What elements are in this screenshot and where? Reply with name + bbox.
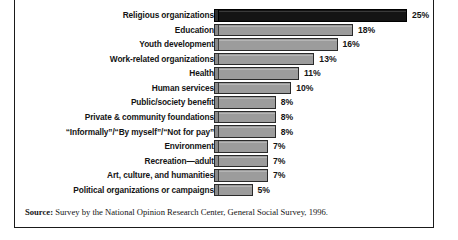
bar-row: Human services10% <box>15 81 433 96</box>
source-note: Source: Survey by the National Opinion R… <box>25 207 421 217</box>
bar-value-label: 18% <box>358 26 375 35</box>
bar <box>214 82 291 95</box>
bar-row: Youth development16% <box>15 37 433 52</box>
bar-category-label: “Informally”/“By myself”/“Not for pay” <box>4 128 214 136</box>
bar <box>214 140 268 153</box>
bar-row: Public/society benefit8% <box>15 95 433 110</box>
source-label: Source: <box>25 207 53 217</box>
bar-wrapper <box>214 82 291 95</box>
bar <box>214 184 253 197</box>
bar-category-label: Work-related organizations <box>4 55 214 63</box>
bar-row: Work-related organizations13% <box>15 52 433 67</box>
bar-wrapper <box>214 169 268 182</box>
bar-row: Political organizations or campaigns5% <box>15 183 433 198</box>
bar-value-label: 13% <box>319 55 336 64</box>
bar-highlight-line <box>219 40 337 41</box>
bar-category-label: Youth development <box>4 40 214 48</box>
bar <box>214 155 268 168</box>
bar-row: Health11% <box>15 66 433 81</box>
bar-category-label: Human services <box>4 84 214 92</box>
bar-category-label: Religious organizations <box>4 11 214 19</box>
bar-row: Education18% <box>15 23 433 38</box>
bar-highlight-line <box>219 84 290 85</box>
bar-category-label: Private & community foundations <box>4 113 214 121</box>
bar-wrapper <box>214 53 314 66</box>
bar-highlight-line <box>219 26 352 27</box>
bar <box>214 24 353 37</box>
bar-wrapper <box>214 67 299 80</box>
bar-wrapper <box>214 111 276 124</box>
bar-highlight-line <box>219 69 298 70</box>
source-text: Survey by the National Opinion Research … <box>53 207 328 217</box>
bar-value-label: 10% <box>296 84 313 93</box>
bar-value-label: 16% <box>343 40 360 49</box>
bar-row: Environment7% <box>15 139 433 154</box>
figure-frame: Religious organizations25%Education18%Yo… <box>14 0 434 228</box>
bar-wrapper <box>214 155 268 168</box>
bar-value-label: 7% <box>273 171 285 180</box>
bar-wrapper <box>214 140 268 153</box>
bar-value-label: 25% <box>412 11 429 20</box>
bar-category-label: Political organizations or campaigns <box>4 186 214 194</box>
bar-wrapper <box>214 125 276 138</box>
bar-value-label: 7% <box>273 142 285 151</box>
bar <box>214 96 276 109</box>
bar <box>214 125 276 138</box>
bar <box>214 169 268 182</box>
bar-category-label: Environment <box>4 142 214 150</box>
bar-value-label: 8% <box>281 113 293 122</box>
bar-value-label: 7% <box>273 157 285 166</box>
bar-highlight-line <box>219 142 267 143</box>
bar-wrapper <box>214 38 338 51</box>
bar-value-label: 5% <box>258 186 270 195</box>
bar-highlight-line <box>219 157 267 158</box>
bar-highlight-line <box>219 11 406 12</box>
bar-row: Religious organizations25% <box>15 8 433 23</box>
bar-highlight-line <box>219 171 267 172</box>
bar-category-label: Art, culture, and humanities <box>4 171 214 179</box>
bar-wrapper <box>214 24 353 37</box>
bar-value-label: 11% <box>304 69 321 78</box>
bar-row: Recreation—adult7% <box>15 154 433 169</box>
bar-category-label: Education <box>4 26 214 34</box>
bar-category-label: Public/society benefit <box>4 98 214 106</box>
bar-wrapper <box>214 9 407 22</box>
bar-wrapper <box>214 96 276 109</box>
bar-row: “Informally”/“By myself”/“Not for pay”8% <box>15 124 433 139</box>
bar-value-label: 8% <box>281 98 293 107</box>
bar-highlight-line <box>219 98 275 99</box>
bar-category-label: Health <box>4 69 214 77</box>
bar <box>214 111 276 124</box>
bar-chart: Religious organizations25%Education18%Yo… <box>15 0 433 189</box>
bar <box>214 53 314 66</box>
bar-highlight-line <box>219 113 275 114</box>
bar-row: Private & community foundations8% <box>15 110 433 125</box>
bar-wrapper <box>214 184 253 197</box>
bar-value-label: 8% <box>281 128 293 137</box>
bar <box>214 38 338 51</box>
bar-row: Art, culture, and humanities7% <box>15 168 433 183</box>
bar <box>214 67 299 80</box>
bar-highlight-line <box>219 55 313 56</box>
bar <box>214 9 407 22</box>
bar-category-label: Recreation—adult <box>4 157 214 165</box>
bar-highlight-line <box>219 186 252 187</box>
bar-highlight-line <box>219 127 275 128</box>
